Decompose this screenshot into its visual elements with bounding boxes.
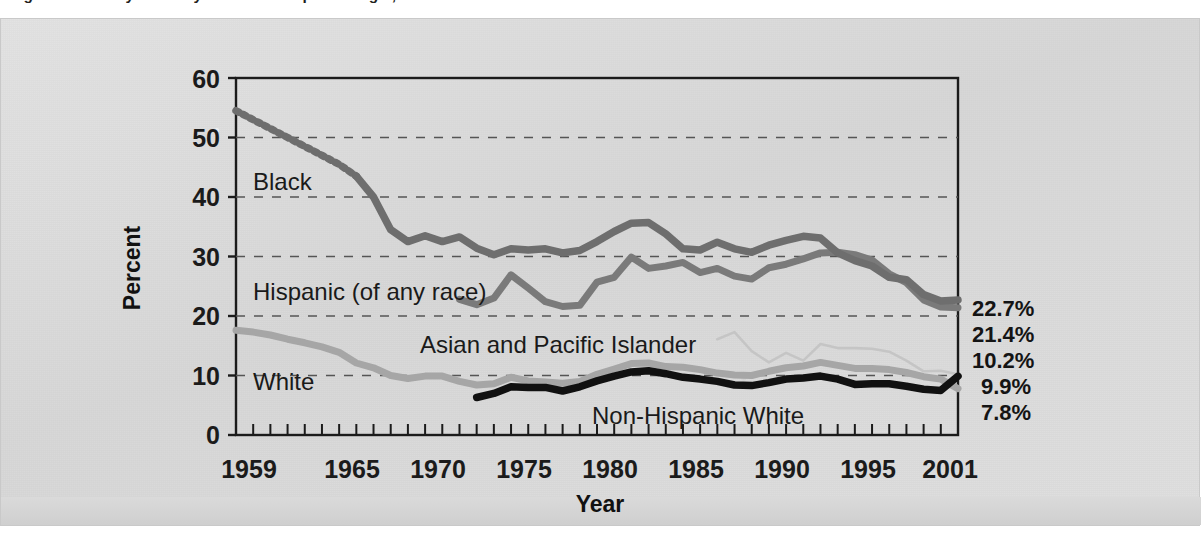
y-tick-40: 40 bbox=[192, 183, 220, 211]
y-tick-60: 60 bbox=[192, 65, 220, 93]
y-tick-20: 20 bbox=[192, 302, 220, 330]
y-tick-30: 30 bbox=[192, 243, 220, 271]
series-label-non-hispanic-white: Non-Hispanic White bbox=[592, 402, 804, 429]
end-label-black: 22.7% bbox=[972, 296, 1034, 321]
end-value-labels: 22.7% 21.4% 10.2% 9.9% 7.8% bbox=[972, 296, 1034, 425]
series-label-asian: Asian and Pacific Islander bbox=[420, 331, 696, 358]
x-tick-1985: 1985 bbox=[668, 455, 724, 483]
x-tick-1980: 1980 bbox=[582, 455, 638, 483]
x-tick-1995: 1995 bbox=[840, 455, 896, 483]
y-tick-50: 50 bbox=[192, 124, 220, 152]
y-tick-10: 10 bbox=[192, 362, 220, 390]
series-path-hispanic bbox=[460, 252, 959, 307]
x-tick-1970: 1970 bbox=[410, 455, 466, 483]
x-tick-2001: 2001 bbox=[922, 455, 978, 483]
x-tick-1965: 1965 bbox=[324, 455, 380, 483]
series-label-hispanic: Hispanic (of any race) bbox=[253, 278, 486, 305]
x-axis-labels: 1959 1965 1970 1975 1980 1985 1990 1995 … bbox=[221, 455, 978, 483]
series-label-white: White bbox=[253, 368, 314, 395]
end-label-non-hispanic-white: 9.9% bbox=[981, 374, 1031, 399]
series-label-black: Black bbox=[253, 168, 313, 195]
end-label-white: 7.8% bbox=[981, 400, 1031, 425]
series-path-black bbox=[236, 111, 356, 177]
x-tick-1975: 1975 bbox=[496, 455, 552, 483]
end-label-asian: 10.2% bbox=[972, 348, 1034, 373]
y-tick-0: 0 bbox=[206, 421, 220, 449]
x-axis-title: Year bbox=[576, 491, 625, 517]
y-axis-labels: 0 10 20 30 40 50 60 bbox=[192, 65, 220, 449]
end-label-hispanic: 21.4% bbox=[972, 322, 1034, 347]
x-tick-1959: 1959 bbox=[221, 455, 277, 483]
x-tick-1990: 1990 bbox=[754, 455, 810, 483]
y-axis-title: Percent bbox=[119, 225, 145, 310]
